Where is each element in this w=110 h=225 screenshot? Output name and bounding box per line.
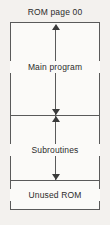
- main-program-arrow-down-icon: [52, 109, 60, 115]
- region-label-main-program: Main program: [10, 61, 100, 73]
- region-label-subroutines: Subroutines: [10, 144, 100, 156]
- main-program-arrow-up-icon: [52, 24, 60, 30]
- divider-subroutines-unused: [10, 180, 100, 181]
- region-label-unused-rom: Unused ROM: [10, 189, 100, 201]
- rom-memory-map-diagram: ROM page 00 Main program Subroutines Unu…: [0, 0, 110, 225]
- subroutines-arrow-up-icon: [52, 116, 60, 122]
- subroutines-arrow-down-icon: [52, 174, 60, 180]
- diagram-title: ROM page 00: [0, 7, 110, 17]
